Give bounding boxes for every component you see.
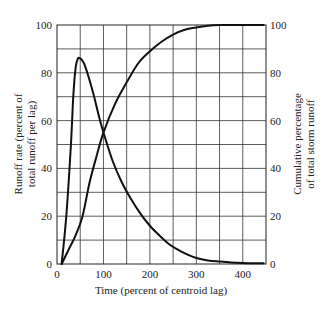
y-right-tick-label: 100 bbox=[270, 19, 287, 31]
y-tick-label: 60 bbox=[41, 115, 53, 127]
y-tick-label: 40 bbox=[41, 162, 53, 174]
runoff-chart: 0100200300400 020406080100 020406080100 … bbox=[0, 0, 330, 310]
y-axis-left-ticks: 020406080100 bbox=[36, 19, 53, 270]
svg-text:total runoff per lag): total runoff per lag) bbox=[25, 101, 38, 188]
y-axis-right-label: Cumulative percentage of total storm run… bbox=[291, 93, 316, 195]
y-tick-label: 80 bbox=[41, 67, 53, 79]
x-tick-label: 100 bbox=[95, 268, 112, 280]
runoff-rate-curve bbox=[62, 58, 264, 264]
x-axis-ticks: 0100200300400 bbox=[54, 268, 251, 280]
svg-text:of total storm runoff: of total storm runoff bbox=[304, 99, 316, 189]
x-tick-label: 200 bbox=[142, 268, 159, 280]
y-right-tick-label: 60 bbox=[270, 115, 282, 127]
grid-lines bbox=[57, 25, 266, 264]
y-right-tick-label: 0 bbox=[270, 258, 276, 270]
y-tick-label: 20 bbox=[41, 210, 53, 222]
svg-text:Runoff rate (percent of: Runoff rate (percent of bbox=[12, 93, 25, 194]
y-tick-label: 100 bbox=[36, 19, 53, 31]
x-axis-label: Time (percent of centroid lag) bbox=[95, 284, 227, 297]
y-right-tick-label: 80 bbox=[270, 67, 282, 79]
y-right-tick-label: 40 bbox=[270, 162, 282, 174]
y-axis-right-ticks: 020406080100 bbox=[270, 19, 287, 270]
y-right-tick-label: 20 bbox=[270, 210, 282, 222]
x-tick-label: 300 bbox=[188, 268, 205, 280]
y-tick-label: 0 bbox=[47, 258, 53, 270]
svg-text:Cumulative percentage: Cumulative percentage bbox=[291, 93, 303, 195]
x-tick-label: 0 bbox=[54, 268, 60, 280]
y-axis-left-label: Runoff rate (percent of total runoff per… bbox=[12, 93, 38, 194]
x-tick-label: 400 bbox=[235, 268, 252, 280]
